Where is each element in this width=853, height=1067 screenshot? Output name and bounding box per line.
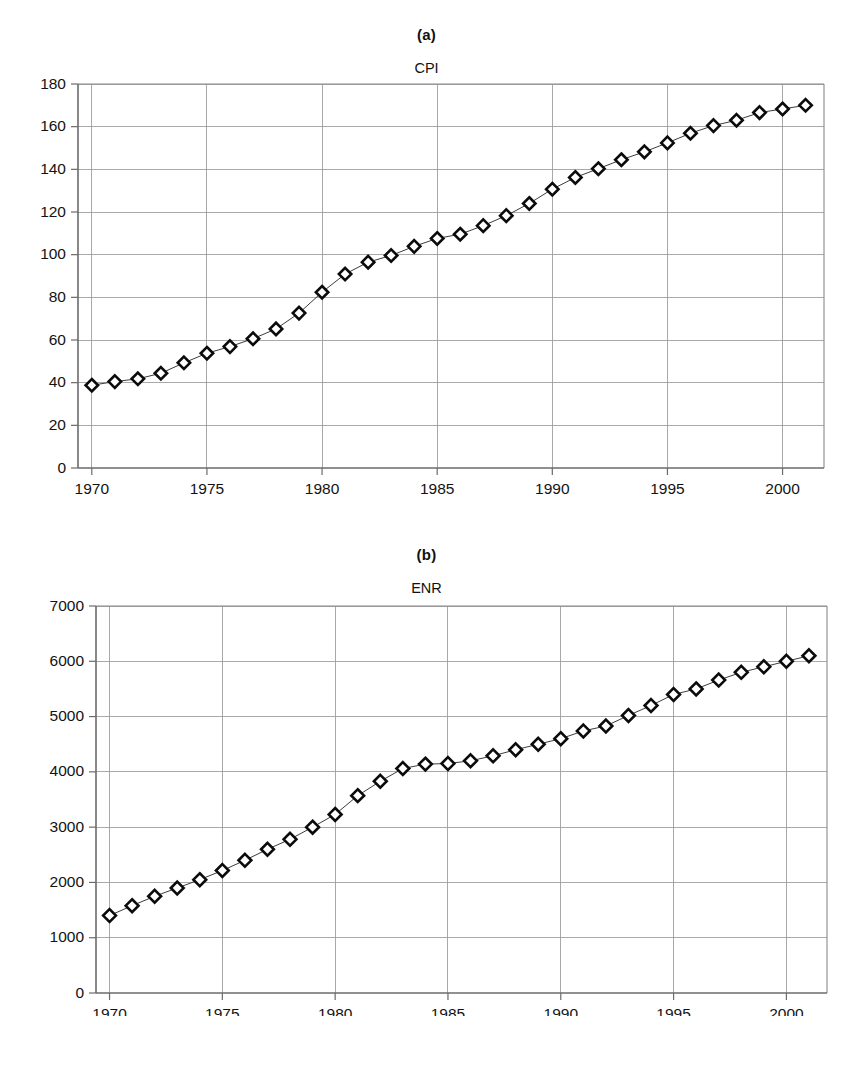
x-tick-label: 1985 xyxy=(420,480,454,496)
y-tick-label: 0 xyxy=(75,984,84,1001)
series-line xyxy=(110,656,809,916)
x-tick-label: 1980 xyxy=(318,1005,353,1016)
data-point-marker xyxy=(690,683,703,696)
data-point-marker xyxy=(155,367,167,379)
data-point-marker xyxy=(712,674,725,687)
data-point-marker xyxy=(645,699,658,712)
y-tick-label: 60 xyxy=(49,331,67,348)
data-point-marker xyxy=(224,340,236,352)
data-point-marker xyxy=(592,162,604,174)
data-point-marker xyxy=(509,743,522,756)
data-point-marker xyxy=(261,843,274,856)
data-point-marker xyxy=(385,249,397,261)
data-point-marker xyxy=(362,256,374,268)
data-point-marker xyxy=(684,127,696,139)
x-tick-label: 1995 xyxy=(650,480,684,496)
data-point-marker xyxy=(103,909,116,922)
y-tick-label: 80 xyxy=(49,288,67,305)
data-point-marker xyxy=(351,789,364,802)
data-point-marker xyxy=(577,725,590,738)
data-point-marker xyxy=(270,323,282,335)
data-point-marker xyxy=(339,268,351,280)
data-point-marker xyxy=(109,375,121,387)
data-point-marker xyxy=(193,873,206,886)
data-point-marker xyxy=(523,197,535,209)
data-point-marker xyxy=(178,357,190,369)
data-point-marker xyxy=(132,373,144,385)
x-tick-label: 1990 xyxy=(544,1005,579,1016)
cpi-chart-area: 0204060801001201401601801970197519801985… xyxy=(0,76,853,496)
data-point-marker xyxy=(306,821,319,834)
series-line xyxy=(92,105,806,385)
data-point-marker xyxy=(419,758,432,771)
data-point-marker xyxy=(615,154,627,166)
x-tick-label: 1985 xyxy=(431,1005,465,1016)
y-tick-label: 2000 xyxy=(50,873,85,890)
data-point-marker xyxy=(247,333,259,345)
data-point-marker xyxy=(757,660,770,673)
data-point-marker xyxy=(780,655,793,668)
data-point-marker xyxy=(622,709,635,722)
data-point-marker xyxy=(554,732,567,745)
data-point-marker xyxy=(374,775,387,788)
data-point-marker xyxy=(442,757,455,770)
x-tick-label: 1995 xyxy=(656,1005,690,1016)
x-tick-label: 1975 xyxy=(205,1005,239,1016)
y-tick-label: 160 xyxy=(40,117,66,134)
chart-panel-a: (a) CPI 02040608010012014016018019701975… xyxy=(0,0,853,540)
data-point-marker xyxy=(201,347,213,359)
panel-b-label: (b) xyxy=(0,546,853,563)
data-point-marker xyxy=(477,219,489,231)
y-tick-label: 3000 xyxy=(50,818,85,835)
data-point-marker xyxy=(86,379,98,391)
x-tick-label: 1970 xyxy=(92,1005,127,1016)
data-point-marker xyxy=(454,228,466,240)
y-tick-label: 0 xyxy=(57,459,66,476)
data-point-marker xyxy=(735,666,748,679)
y-tick-label: 4000 xyxy=(50,762,85,779)
y-tick-label: 40 xyxy=(49,373,67,390)
data-point-marker xyxy=(216,864,229,877)
y-tick-label: 20 xyxy=(49,416,67,433)
figure-page: (a) CPI 02040608010012014016018019701975… xyxy=(0,0,853,1067)
data-point-marker xyxy=(500,209,512,221)
y-tick-label: 6000 xyxy=(50,652,85,669)
panel-a-label: (a) xyxy=(0,26,853,43)
enr-chart-area: 0100020003000400050006000700019701975198… xyxy=(0,596,853,1016)
panel-b-title: ENR xyxy=(0,580,853,596)
data-point-marker xyxy=(707,119,719,131)
data-point-marker xyxy=(408,240,420,252)
data-point-marker xyxy=(667,688,680,701)
data-point-marker xyxy=(148,890,161,903)
panel-a-title: CPI xyxy=(0,60,853,76)
data-point-marker xyxy=(661,137,673,149)
data-point-marker xyxy=(284,833,297,846)
data-point-marker xyxy=(464,754,477,767)
chart-panel-b: (b) ENR 01000200030004000500060007000197… xyxy=(0,530,853,1067)
x-tick-label: 1975 xyxy=(190,480,224,496)
y-tick-label: 7000 xyxy=(50,597,85,614)
cpi-line-chart: 0204060801001201401601801970197519801985… xyxy=(0,76,853,496)
data-point-marker xyxy=(487,749,500,762)
data-point-marker xyxy=(799,99,811,111)
x-tick-label: 2000 xyxy=(765,480,800,496)
enr-line-chart: 0100020003000400050006000700019701975198… xyxy=(0,596,853,1016)
data-point-marker xyxy=(126,899,139,912)
y-tick-label: 5000 xyxy=(50,707,85,724)
y-tick-label: 180 xyxy=(40,76,66,92)
data-point-marker xyxy=(803,649,816,662)
data-point-marker xyxy=(431,232,443,244)
y-tick-label: 140 xyxy=(40,160,66,177)
x-tick-label: 1970 xyxy=(75,480,110,496)
data-point-marker xyxy=(569,171,581,183)
x-tick-label: 1980 xyxy=(305,480,340,496)
data-point-marker xyxy=(532,738,545,751)
y-tick-label: 1000 xyxy=(50,928,85,945)
data-point-marker xyxy=(638,146,650,158)
data-point-marker xyxy=(599,720,612,733)
data-point-marker xyxy=(329,808,342,821)
x-tick-label: 2000 xyxy=(769,1005,804,1016)
y-tick-label: 120 xyxy=(40,203,66,220)
data-point-marker xyxy=(171,882,184,895)
data-point-marker xyxy=(396,762,409,775)
